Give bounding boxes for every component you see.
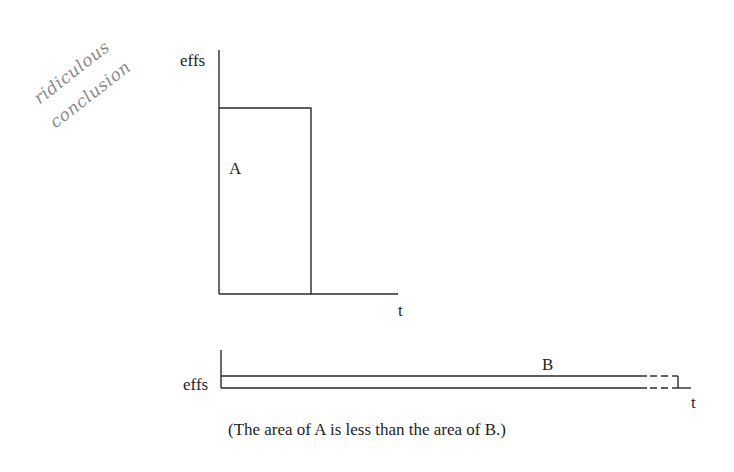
region-a-outline	[219, 108, 311, 294]
top-y-axis-label: effs	[180, 52, 205, 69]
region-a-label: A	[229, 160, 241, 177]
bottom-x-axis-label: t	[691, 394, 696, 411]
figure: ridiculous conclusion effs t A effs t B …	[0, 0, 734, 472]
top-x-axis-label: t	[398, 302, 403, 319]
bottom-y-axis-label: effs	[183, 376, 208, 393]
diagram-lines	[0, 0, 734, 472]
figure-caption: (The area of A is less than the area of …	[0, 420, 734, 440]
region-b-label: B	[542, 356, 553, 373]
